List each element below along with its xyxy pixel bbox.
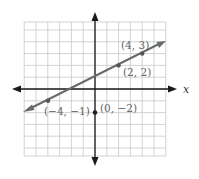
axes: x — [12, 12, 190, 166]
label-point-neg4-neg1: (−4, −1) — [44, 105, 90, 117]
coordinate-plane: x (4, 3) (2, 2) (−4, −1) (0, −2) — [0, 0, 199, 179]
point-0-neg2 — [93, 110, 98, 115]
line-left-arrow-icon — [23, 105, 35, 113]
point-2-2 — [116, 63, 120, 67]
label-point-2-2: (2, 2) — [123, 66, 151, 78]
label-point-0-neg2: (0, −2) — [100, 102, 137, 114]
point-4-3 — [140, 51, 144, 55]
x-axis-right-arrow-icon — [168, 86, 177, 93]
x-axis-label: x — [183, 83, 190, 96]
line-right-arrow-icon — [157, 41, 167, 48]
y-axis-up-arrow-icon — [92, 12, 99, 21]
label-point-4-3: (4, 3) — [121, 39, 149, 51]
x-axis-left-arrow-icon — [12, 86, 21, 93]
y-axis-down-arrow-icon — [92, 157, 99, 166]
point-neg4-neg1 — [46, 99, 50, 103]
